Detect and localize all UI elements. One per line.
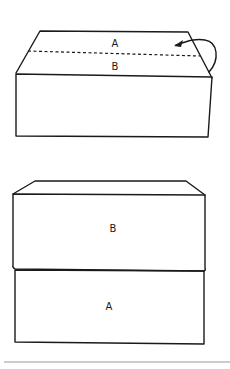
front-box: [16, 74, 212, 137]
figure-after-fold: B A: [13, 181, 206, 344]
label-a-top: A: [112, 38, 119, 49]
fold-line: [28, 51, 200, 56]
label-b-top: B: [112, 61, 119, 72]
top-face: [13, 181, 205, 195]
figure-before-fold: A B: [16, 31, 216, 137]
arrowhead-icon: [174, 40, 183, 47]
fold-diagram: A B B A: [0, 0, 230, 369]
label-a-bottom: A: [106, 301, 113, 312]
label-b-bottom: B: [110, 223, 117, 234]
